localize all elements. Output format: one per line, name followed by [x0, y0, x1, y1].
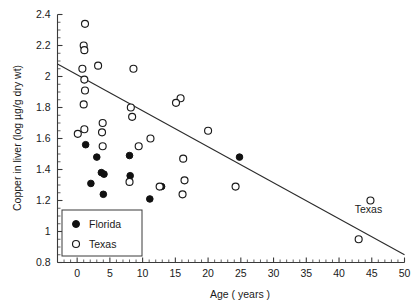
data-point-texas-7	[80, 101, 87, 108]
y-tick-label-7: 2.2	[36, 39, 51, 51]
annotations-group: Texas	[355, 203, 382, 215]
data-point-florida-4	[101, 171, 108, 178]
x-tick-label-0: 0	[74, 267, 80, 279]
data-point-texas-3	[79, 65, 86, 72]
series-texas	[74, 20, 374, 242]
y-tick-label-0: 0.8	[36, 256, 51, 268]
data-point-texas-15	[129, 113, 136, 120]
data-point-texas-18	[147, 135, 154, 142]
legend-label-florida: Florida	[89, 218, 121, 230]
x-tick-label-2: 10	[137, 267, 149, 279]
data-point-texas-19	[156, 183, 163, 190]
data-point-texas-28	[355, 236, 362, 243]
data-point-texas-6	[81, 87, 88, 94]
x-tick-label-1: 5	[107, 267, 113, 279]
data-point-texas-13	[130, 65, 137, 72]
data-point-florida-0	[82, 141, 89, 148]
y-axis-title: Copper in liver (log µg/g dry wt)	[11, 65, 23, 211]
data-point-texas-11	[99, 129, 106, 136]
x-tick-label-9: 45	[366, 267, 378, 279]
y-tick-label-1: 1	[45, 225, 51, 237]
data-point-texas-5	[81, 76, 88, 83]
x-tick-label-7: 35	[300, 267, 312, 279]
data-point-texas-4	[95, 62, 102, 69]
y-tick-label-6: 2	[45, 70, 51, 82]
x-tick-label-3: 15	[170, 267, 182, 279]
data-points-group	[74, 20, 374, 242]
y-tick-label-3: 1.4	[36, 163, 51, 175]
data-point-texas-22	[180, 155, 187, 162]
series-florida	[82, 141, 242, 202]
y-tick-label-5: 1.8	[36, 101, 51, 113]
data-point-texas-8	[81, 126, 88, 133]
y-tick-label-8: 2.4	[36, 8, 51, 20]
data-point-texas-21	[173, 99, 180, 106]
data-point-texas-14	[127, 104, 134, 111]
legend-marker-florida	[73, 221, 80, 228]
x-axis-title: Age ( years )	[210, 288, 270, 300]
data-point-texas-10	[99, 120, 106, 127]
chart-legend: FloridaTexas	[62, 210, 142, 256]
chart-canvas: 0.811.21.41.61.822.22.405101520253035404…	[0, 0, 419, 306]
data-point-texas-16	[126, 178, 133, 185]
data-point-texas-25	[205, 127, 212, 134]
data-point-texas-24	[179, 191, 186, 198]
data-point-texas-26	[232, 183, 239, 190]
data-point-texas-17	[135, 143, 142, 150]
data-point-florida-8	[147, 196, 154, 203]
data-point-texas-0	[81, 20, 88, 27]
y-tick-label-4: 1.6	[36, 132, 51, 144]
data-point-texas-12	[99, 143, 106, 150]
x-tick-label-6: 30	[268, 267, 280, 279]
y-tick-label-2: 1.2	[36, 194, 51, 206]
data-point-florida-5	[100, 191, 107, 198]
data-point-florida-6	[126, 152, 133, 159]
x-tick-label-5: 25	[235, 267, 247, 279]
legend-marker-texas	[73, 241, 80, 248]
legend-label-texas: Texas	[89, 238, 116, 250]
data-point-florida-10	[236, 154, 243, 161]
x-tick-label-8: 40	[333, 267, 345, 279]
x-tick-label-4: 20	[202, 267, 214, 279]
data-point-texas-2	[81, 47, 88, 54]
annotation-texas: Texas	[355, 203, 382, 215]
data-point-florida-2	[93, 154, 100, 161]
data-point-florida-1	[88, 180, 95, 187]
data-point-texas-23	[181, 177, 188, 184]
scatter-chart-figure: 0.811.21.41.61.822.22.405101520253035404…	[0, 0, 419, 306]
x-tick-label-10: 50	[399, 267, 411, 279]
data-point-texas-9	[74, 130, 81, 137]
